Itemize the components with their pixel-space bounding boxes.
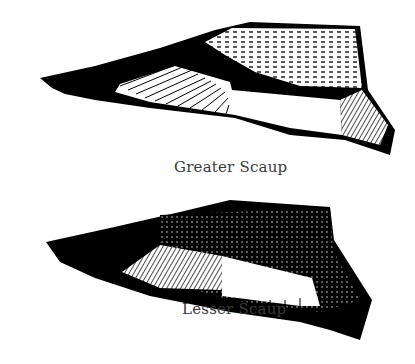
lesser-scaup-wing [46,200,372,340]
wing-comparison-figure: Greater Scaup Lesser Scaup [0,0,415,364]
greater-scaup-caption: Greater Scaup [174,158,287,176]
greater-scaup-wing [40,22,395,155]
lesser-scaup-caption: Lesser Scaup [182,300,286,318]
